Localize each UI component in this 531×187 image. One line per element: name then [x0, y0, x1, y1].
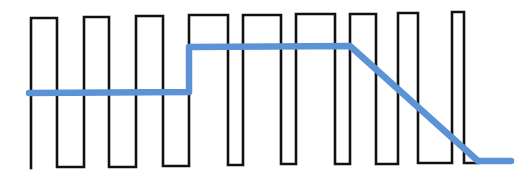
pwm-diagram-canvas [0, 0, 531, 187]
pwm-diagram [0, 0, 531, 187]
average-output-line [29, 46, 511, 161]
